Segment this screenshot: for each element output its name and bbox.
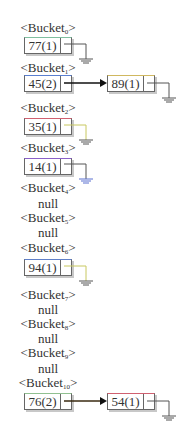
node-value: 45(2) — [25, 76, 61, 91]
null-label: null — [0, 362, 96, 376]
bucket-label-3: <Bucket3> — [0, 141, 96, 159]
bucket-index: 9 — [65, 353, 69, 361]
null-label: null — [0, 226, 96, 240]
null-ground-icon — [147, 82, 177, 104]
null-ground-icon — [147, 400, 177, 422]
node-value: 14(1) — [25, 159, 61, 174]
bucket-index: 4 — [65, 188, 69, 196]
bucket-name: Bucket — [28, 180, 65, 195]
node-value: 76(2) — [25, 394, 61, 409]
node-value: 54(1) — [108, 394, 144, 409]
bucket-name: Bucket — [28, 100, 65, 115]
bucket-label-6: <Bucket6> — [0, 241, 96, 259]
bucket-index: 3 — [65, 148, 69, 156]
bucket-index: 8 — [65, 324, 69, 332]
bucket-name: Bucket — [28, 210, 65, 225]
null-label: null — [0, 332, 96, 346]
bucket-index: 2 — [65, 108, 69, 116]
bucket-name: Bucket — [28, 345, 65, 360]
bucket-name: Bucket — [28, 140, 65, 155]
bucket-label-10: <Bucket10> — [0, 376, 96, 394]
next-arrow-icon — [64, 394, 108, 408]
bucket-name: Bucket — [26, 375, 63, 390]
null-label: null — [0, 303, 96, 317]
bucket-name: Bucket — [28, 287, 65, 302]
bucket-index: 0 — [65, 28, 69, 36]
bucket-index: 5 — [65, 218, 69, 226]
null-label: null — [0, 197, 96, 211]
bucket-name: Bucket — [28, 240, 65, 255]
null-ground-icon — [64, 265, 94, 287]
bucket-label-2: <Bucket2> — [0, 101, 96, 119]
node-value: 35(1) — [25, 119, 61, 134]
bucket-name: Bucket — [28, 60, 65, 75]
node-value: 77(1) — [25, 38, 61, 53]
bucket-index: 7 — [65, 295, 69, 303]
bucket-index: 10 — [63, 383, 70, 391]
bucket-index: 6 — [65, 248, 69, 256]
bucket-name: Bucket — [28, 316, 65, 331]
node-value: 89(1) — [108, 76, 144, 91]
next-arrow-icon — [64, 76, 108, 90]
bucket-name: Bucket — [28, 20, 65, 35]
node-value: 94(1) — [25, 260, 61, 275]
